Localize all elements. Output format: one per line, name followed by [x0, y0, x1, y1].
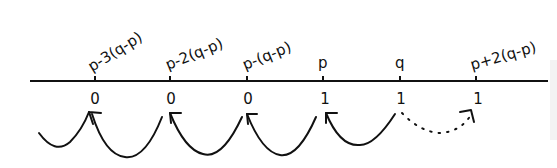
value-p+2: 1	[473, 90, 483, 108]
point-values: 0 0 0 1 1 1	[90, 90, 483, 108]
arrow-p-1-to-p-2	[170, 113, 242, 155]
arrowhead-p+2	[460, 110, 474, 122]
arrow-left-to-p-3	[39, 112, 89, 147]
number-line-diagram: p-3(q-p) p-2(q-p) p-(q-p) p q p+2(q-p) 0…	[0, 0, 557, 168]
value-p-1: 0	[243, 90, 253, 108]
arrow-p-2-to-p-3	[92, 114, 162, 157]
arrow-q-to-p+2-dotted	[402, 113, 471, 133]
label-p-3: p-3(q-p)	[85, 28, 146, 75]
label-p: p	[318, 54, 328, 72]
label-p+2: p+2(q-p)	[468, 38, 538, 74]
value-p-2: 0	[166, 90, 176, 108]
arrow-p-to-p-1	[247, 114, 316, 155]
page-edge-shadow	[550, 60, 557, 140]
label-p-2: p-2(q-p)	[163, 34, 226, 73]
arrow-q-to-p	[326, 113, 395, 145]
label-q: q	[395, 54, 405, 72]
arrows	[39, 110, 474, 157]
label-p-1: p-(q-p)	[240, 38, 294, 74]
value-p: 1	[320, 90, 330, 108]
value-p-3: 0	[90, 90, 100, 108]
point-labels: p-3(q-p) p-2(q-p) p-(q-p) p q p+2(q-p)	[85, 28, 539, 75]
value-q: 1	[396, 90, 406, 108]
